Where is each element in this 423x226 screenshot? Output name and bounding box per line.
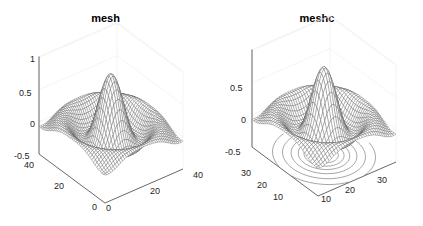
y-axis-tick-label: 40 [24, 160, 34, 170]
z-axis-tick-label: -0.5 [225, 147, 241, 157]
mesh-plot-panel: mesh 10.50-0.54020002040 [0, 0, 211, 226]
z-axis-tick-label: 1 [30, 54, 35, 64]
y-axis-tick-label: 30 [241, 168, 251, 178]
x-axis-tick-label: 20 [150, 186, 160, 196]
y-axis-tick-label: 10 [273, 192, 283, 202]
y-axis-tick-label: 20 [257, 180, 267, 190]
x-axis-tick-label: 40 [193, 170, 203, 180]
x-axis-tick-label: 30 [377, 175, 387, 185]
z-axis-tick-label: 0.5 [19, 88, 32, 98]
meshc-plot-panel: meshc 0.50-0.5302010102030 [211, 0, 423, 226]
z-axis-tick-label: 0 [241, 115, 246, 125]
x-axis-tick-label: 20 [345, 185, 355, 195]
z-axis-tick-label: 0 [30, 119, 35, 129]
x-axis-tick-label: 10 [321, 194, 331, 204]
y-axis-tick-label: 20 [54, 181, 64, 191]
x-axis-tick-label: 0 [106, 203, 111, 213]
meshc-surface-canvas [211, 0, 423, 226]
y-axis-tick-label: 0 [92, 202, 97, 212]
mesh-surface-canvas [0, 0, 211, 226]
z-axis-tick-label: 0.5 [230, 83, 243, 93]
